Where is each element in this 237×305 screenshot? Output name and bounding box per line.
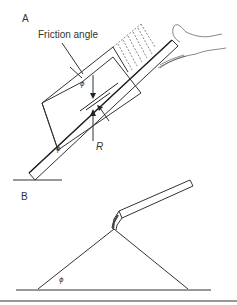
weight-arrowhead-icon xyxy=(90,93,96,99)
friction-angle-label: Friction angle xyxy=(38,29,98,40)
reaction-label: R xyxy=(96,141,103,152)
phi-symbol-b: ϕ xyxy=(59,275,64,284)
normal-force-line xyxy=(100,108,109,121)
inclined-plank xyxy=(29,40,178,180)
phi-symbol-a: ϕ xyxy=(80,79,85,88)
base-phi-symbol: ϕ xyxy=(56,144,61,153)
friction-diagram: A Friction angle ϕ R ϕ B xyxy=(0,0,237,305)
block-left-edge xyxy=(42,103,58,150)
pouring-chute xyxy=(112,180,193,230)
panel-b-label: B xyxy=(21,191,28,202)
panel-a-label: A xyxy=(22,13,29,24)
block-outline xyxy=(42,57,141,150)
hand-icon xyxy=(158,25,226,68)
